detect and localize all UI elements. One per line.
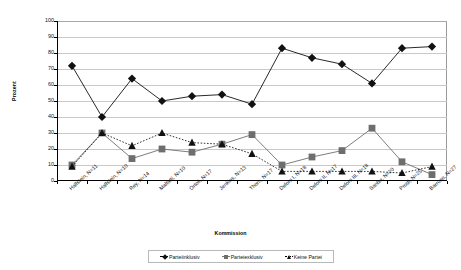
data-point-square: [129, 155, 136, 162]
data-point-diamond: [98, 113, 106, 121]
data-point-diamond: [308, 54, 316, 62]
data-point-diamond: [428, 43, 436, 51]
legend-marker-diamond-icon: [162, 254, 168, 260]
data-point-square: [369, 125, 376, 132]
x-tick-label: Hallstein, N=11: [68, 187, 72, 191]
data-point-triangle: [368, 167, 375, 174]
data-point-diamond: [188, 92, 196, 100]
x-tick-label: Ortoli, N=17: [188, 187, 192, 191]
legend-item[interactable]: Parteiinklusiv: [160, 254, 200, 260]
data-point-square: [159, 146, 166, 153]
legend-line-swatch: [160, 256, 168, 257]
x-tick-label: Hallstein, N=10: [98, 187, 102, 191]
data-point-diamond: [248, 100, 256, 108]
legend-item[interactable]: Parteiexklusiv: [222, 254, 263, 260]
data-point-square: [429, 171, 436, 178]
data-point-triangle: [128, 142, 135, 149]
data-point-diamond: [338, 60, 346, 68]
data-point-triangle: [338, 167, 345, 174]
data-point-square: [309, 154, 316, 161]
x-tick-label: Barroso, N=27: [428, 187, 432, 191]
legend-line-swatch: [285, 256, 293, 257]
legend-label: Parteiexklusiv: [231, 254, 263, 260]
data-point-triangle: [278, 167, 285, 174]
x-tick-label: Thorn, N=17: [248, 187, 252, 191]
chart-legend[interactable]: ParteiinklusivParteiexklusivKeine Partei: [148, 250, 334, 263]
data-point-square: [279, 162, 286, 169]
data-point-diamond: [68, 62, 76, 70]
x-tick-label: Delors I, N=18: [278, 187, 282, 191]
data-point-square: [249, 131, 256, 138]
data-point-triangle: [428, 163, 435, 170]
data-point-square: [339, 147, 346, 154]
legend-marker-square-icon: [224, 255, 228, 259]
x-tick-label: Rey, N=14: [128, 187, 132, 191]
x-tick-label: Malfatti, N=10: [158, 187, 162, 191]
data-point-triangle: [248, 150, 255, 157]
data-point-square: [399, 158, 406, 165]
data-point-diamond: [128, 75, 136, 83]
data-point-triangle: [308, 167, 315, 174]
legend-marker-triangle-icon: [287, 255, 291, 259]
data-point-diamond: [218, 91, 226, 99]
x-tick-label: Jenkins, N=13: [218, 187, 222, 191]
x-axis-title: Kommission: [0, 230, 461, 236]
chart-container: Prozent 0102030405060708090100 Hallstein…: [0, 0, 461, 270]
x-tick-label: Prodi, N=25: [398, 187, 402, 191]
data-point-triangle: [158, 129, 165, 136]
legend-label: Keine Partei: [294, 254, 322, 260]
x-tick-label: Santer, N=20: [368, 187, 372, 191]
x-tick-label: Delors II, N=17: [308, 187, 312, 191]
legend-line-swatch: [222, 256, 230, 257]
data-point-square: [189, 149, 196, 156]
legend-item[interactable]: Keine Partei: [285, 254, 322, 260]
legend-label: Parteiinklusiv: [169, 254, 200, 260]
data-point-diamond: [158, 97, 166, 105]
x-tick-label: Delors III, N=18: [338, 187, 342, 191]
data-point-diamond: [278, 44, 286, 52]
